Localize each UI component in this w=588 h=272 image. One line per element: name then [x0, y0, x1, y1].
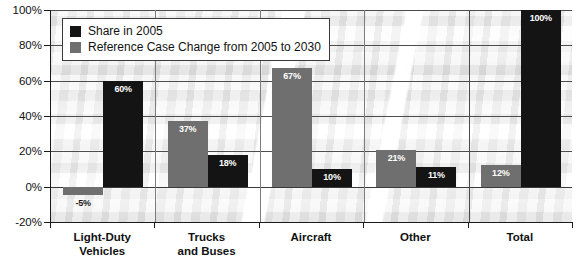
bar-share-in-2005-light-duty-vehicles	[103, 81, 143, 187]
legend: Share in 2005 Reference Case Change from…	[62, 18, 330, 61]
bar-reference-case-change-aircraft	[272, 68, 312, 186]
y-axis-tick-mark	[44, 10, 50, 11]
legend-label: Share in 2005	[88, 24, 163, 38]
x-axis-label-line: Total	[468, 230, 572, 244]
category-separator-3	[364, 10, 365, 222]
legend-label: Reference Case Change from 2005 to 2030	[88, 40, 321, 54]
x-axis-tick-mark	[50, 222, 51, 228]
bar-value-label: 67%	[272, 71, 312, 81]
x-axis-label-line: Light-Duty	[50, 230, 154, 244]
bar-reference-case-change-light-duty-vehicles	[63, 187, 103, 196]
bar-share-in-2005-total	[521, 10, 561, 187]
x-axis-tick-mark	[468, 222, 469, 228]
category-separator-4	[469, 10, 470, 222]
bar-value-label: 37%	[168, 124, 208, 134]
y-axis-tick-label: 0%	[25, 181, 42, 193]
y-axis-tick-mark	[44, 45, 50, 46]
transportation-energy-bar-chart: -5%60%37%18%67%10%21%11%12%100% 100%80%6…	[0, 0, 588, 272]
bar-value-label: 12%	[481, 168, 521, 178]
x-axis-category-label-trucks-and-buses: Trucksand Buses	[154, 230, 258, 258]
bar-value-label: 10%	[312, 172, 352, 182]
bar-value-label: 11%	[416, 170, 456, 180]
black-square-swatch-icon	[70, 26, 81, 37]
x-axis-category-label-aircraft: Aircraft	[259, 230, 363, 244]
y-axis-tick-mark	[44, 81, 50, 82]
y-axis-tick-label: 60%	[19, 75, 42, 87]
y-axis-tick-mark	[44, 151, 50, 152]
x-axis-label-line: Other	[363, 230, 467, 244]
bar-value-label: -5%	[63, 198, 103, 208]
gridline-100	[51, 10, 572, 11]
x-axis-tick-mark	[363, 222, 364, 228]
x-axis-tick-mark	[572, 222, 573, 228]
y-axis-tick-label: 40%	[19, 110, 42, 122]
x-axis-tick-mark	[154, 222, 155, 228]
bar-value-label: 18%	[208, 158, 248, 168]
x-axis-category-label-other: Other	[363, 230, 467, 244]
x-axis-label-line: and Buses	[154, 244, 258, 258]
x-axis-category-label-light-duty-vehicles: Light-DutyVehicles	[50, 230, 154, 258]
y-axis-tick-label: 20%	[19, 145, 42, 157]
x-axis-tick-mark	[259, 222, 260, 228]
y-axis-tick-label: 100%	[13, 4, 42, 16]
y-axis-tick-label: 80%	[19, 39, 42, 51]
x-axis-label-line: Trucks	[154, 230, 258, 244]
x-axis-label-line: Aircraft	[259, 230, 363, 244]
gray-square-swatch-icon	[70, 42, 81, 53]
x-axis-label-line: Vehicles	[50, 244, 154, 258]
x-axis-category-label-total: Total	[468, 230, 572, 244]
legend-item-share-in-2005: Share in 2005	[70, 23, 321, 39]
y-axis-tick-mark	[44, 116, 50, 117]
legend-item-reference-case-change: Reference Case Change from 2005 to 2030	[70, 39, 321, 55]
x-axis-line	[50, 222, 572, 223]
bar-value-label: 60%	[103, 84, 143, 94]
gridline-0	[51, 187, 572, 188]
bar-value-label: 100%	[521, 13, 561, 23]
y-axis-tick-label: -20%	[15, 216, 42, 228]
bar-value-label: 21%	[376, 153, 416, 163]
y-axis-tick-mark	[44, 187, 50, 188]
